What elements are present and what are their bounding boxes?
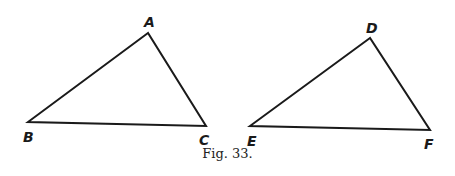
vertex-label-b: B	[23, 129, 34, 145]
triangle-abc	[28, 33, 206, 126]
figure-caption: Fig. 33.	[0, 146, 455, 161]
triangle-def	[250, 38, 430, 130]
vertex-label-d: D	[366, 20, 378, 36]
vertex-label-a: A	[143, 14, 155, 30]
